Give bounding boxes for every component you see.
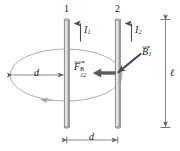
wire-2-number-label: 2 <box>115 4 120 14</box>
wire-1-number-label: 1 <box>64 4 69 14</box>
current-1-subscript: 1 <box>88 28 91 35</box>
force-subscript: 12 <box>80 72 86 78</box>
current-2-subscript: 2 <box>139 28 142 35</box>
current-1-label: I1 <box>84 25 91 36</box>
length-dimension-label: ℓ <box>170 68 174 78</box>
magnetic-force-label: FB12 <box>74 62 86 72</box>
current-1-symbol: I <box>84 24 87 35</box>
bfield-subscript: 1 <box>148 50 151 57</box>
magnetic-force-arrow <box>93 69 115 77</box>
separation-dimension-label: d <box>89 132 94 142</box>
physics-figure-magnetic-force-parallel-wires: 1 2 I1 I2 FB12 B1 d d ℓ <box>0 0 180 151</box>
current-carrying-wire-2 <box>115 19 120 129</box>
radius-dimension-label: d <box>34 68 39 78</box>
wire-length-dimension-line <box>161 20 171 128</box>
current-carrying-wire-1 <box>64 19 69 129</box>
magnetic-field-vector-arrow <box>119 54 141 72</box>
current-2-label: I2 <box>135 25 142 36</box>
magnetic-field-label: B1 <box>142 47 151 58</box>
figure-vector-canvas <box>0 0 180 151</box>
current-2-symbol: I <box>135 24 138 35</box>
